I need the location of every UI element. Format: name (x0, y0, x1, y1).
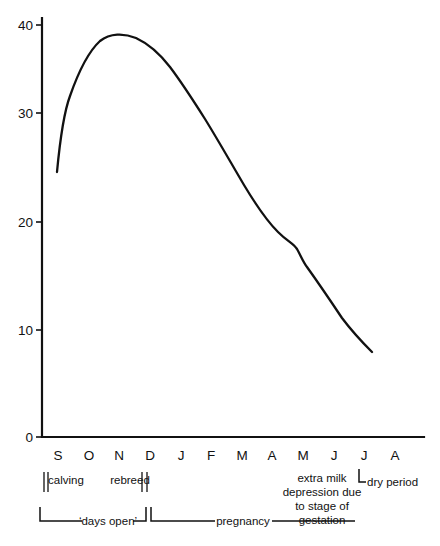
extra-milk-line-1: extra milk (297, 472, 346, 484)
lactation-curve-chart: 40 30 20 10 0 S O N D J F M A M J J A (0, 0, 440, 546)
y-tick-label-10: 10 (18, 323, 33, 338)
chart-figure: 40 30 20 10 0 S O N D J F M A M J J A (0, 0, 440, 546)
dry-period-annotation: dry period (359, 469, 418, 488)
dry-period-bracket-icon (359, 469, 366, 482)
calving-label: calving (48, 474, 84, 486)
pregnancy-label: pregnancy (216, 515, 270, 527)
x-tick-label-sep: S (53, 448, 62, 463)
axis-group (42, 18, 424, 437)
x-tick-label-jul: J (361, 448, 368, 463)
x-tick-label-mar: M (236, 448, 247, 463)
milk-yield-curve (57, 35, 372, 352)
x-tick-label-nov: N (114, 448, 124, 463)
x-tick-label-jun: J (331, 448, 338, 463)
rebreed-label: rebreed (110, 474, 150, 486)
x-tick-labels: S O N D J F M A M J J A (53, 448, 399, 463)
y-tick-label-30: 30 (18, 106, 33, 121)
x-tick-label-jan: J (178, 448, 185, 463)
days-open-label: ‘days open’ (79, 515, 137, 527)
event-labels: calving rebreed (48, 474, 150, 486)
x-tick-label-oct: O (84, 448, 95, 463)
pregnancy-bracket-left (151, 507, 215, 521)
x-tick-label-apr: A (267, 448, 276, 463)
y-tick-labels: 40 30 20 10 0 (18, 18, 33, 445)
days-open-bracket-group: ‘days open’ (40, 507, 146, 527)
extra-milk-line-4: gestation (299, 514, 346, 526)
x-tick-label-feb: F (207, 448, 215, 463)
x-tick-label-dec: D (145, 448, 155, 463)
y-tick-label-20: 20 (18, 215, 33, 230)
extra-milk-line-3: to stage of (295, 500, 350, 512)
y-tick-label-40: 40 (18, 18, 33, 33)
extra-milk-depression-annotation: extra milk depression due to stage of ge… (283, 472, 362, 526)
x-tick-label-may: M (297, 448, 308, 463)
data-series-milk-yield (57, 35, 372, 352)
x-tick-label-aug: A (390, 448, 399, 463)
days-open-bracket-left (40, 507, 82, 521)
dry-period-label: dry period (367, 476, 418, 488)
extra-milk-line-2: depression due (283, 486, 362, 498)
y-tick-label-0: 0 (25, 430, 33, 445)
